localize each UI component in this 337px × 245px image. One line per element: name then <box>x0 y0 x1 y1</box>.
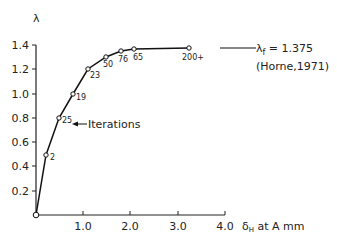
svg-text:0.8: 0.8 <box>12 112 30 125</box>
svg-text:2.0: 2.0 <box>121 220 139 233</box>
lambda-f-annotation: λf = 1.375 (Horne,1971) <box>220 42 329 73</box>
x-axis-label: δH at A mm <box>242 220 305 234</box>
svg-text:0.2: 0.2 <box>12 185 30 198</box>
svg-text:76: 76 <box>118 55 128 64</box>
svg-text:25: 25 <box>62 116 72 125</box>
svg-text:23: 23 <box>90 71 100 80</box>
point-labels: 2 25 19 23 50 76 65 200+ <box>50 53 204 162</box>
svg-text:1.4: 1.4 <box>12 39 30 52</box>
svg-text:(Horne,1971): (Horne,1971) <box>256 60 329 73</box>
svg-text:50: 50 <box>103 60 113 69</box>
y-axis-label: λ <box>33 12 40 25</box>
chart: λ 0.2 0.4 0.6 0.8 1.0 1.2 1.4 1.0 2.0 3.… <box>0 0 337 245</box>
data-markers <box>33 46 191 218</box>
svg-text:λf = 1.375: λf = 1.375 <box>256 42 313 57</box>
iterations-annotation: Iterations <box>72 118 141 131</box>
x-tick-labels: 1.0 2.0 3.0 4.0 <box>74 220 234 233</box>
data-line <box>36 48 189 215</box>
svg-text:0.4: 0.4 <box>12 160 30 173</box>
svg-text:200+: 200+ <box>182 53 204 62</box>
svg-text:65: 65 <box>133 53 143 62</box>
svg-text:3.0: 3.0 <box>169 220 187 233</box>
svg-text:2: 2 <box>50 153 55 162</box>
svg-text:1.0: 1.0 <box>12 88 30 101</box>
svg-text:0.6: 0.6 <box>12 136 30 149</box>
svg-text:4.0: 4.0 <box>216 220 234 233</box>
y-tick-labels: 0.2 0.4 0.6 0.8 1.0 1.2 1.4 <box>12 39 30 198</box>
svg-text:Iterations: Iterations <box>88 118 141 131</box>
svg-text:1.2: 1.2 <box>12 63 30 76</box>
svg-text:19: 19 <box>76 93 86 102</box>
svg-text:1.0: 1.0 <box>74 220 92 233</box>
